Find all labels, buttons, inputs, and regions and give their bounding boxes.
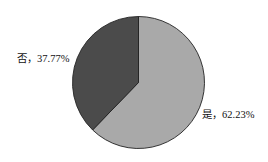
slice-label-yes: 是，62.23% <box>202 106 254 121</box>
slice-label-no: 否，37.77% <box>17 50 69 65</box>
pie-slices <box>73 17 205 149</box>
pie-chart <box>0 0 268 162</box>
